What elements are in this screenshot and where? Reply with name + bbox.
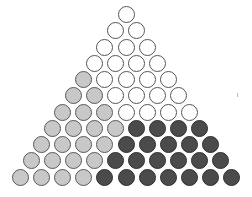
dark-circle (202, 136, 219, 153)
dark-circle (128, 120, 145, 137)
dark-circle (212, 152, 229, 169)
light-circle (12, 169, 29, 186)
light-circle (86, 152, 103, 169)
dark-circle (170, 120, 187, 137)
dark-circle (107, 152, 124, 169)
dark-circle (149, 152, 166, 169)
white-circle (128, 55, 145, 72)
white-circle (128, 22, 145, 39)
light-circle (75, 104, 92, 121)
dark-circle (181, 136, 198, 153)
light-circle (65, 87, 82, 104)
light-circle (75, 71, 92, 88)
light-circle (54, 136, 71, 153)
stray-mark (237, 93, 238, 97)
white-circle (128, 87, 145, 104)
dark-circle (223, 169, 240, 186)
light-circle (65, 152, 82, 169)
white-circle (139, 71, 156, 88)
light-circle (86, 87, 103, 104)
light-circle (96, 136, 113, 153)
white-circle (170, 87, 187, 104)
dark-circle (191, 120, 208, 137)
white-circle (107, 87, 124, 104)
dark-circle (170, 152, 187, 169)
white-circle (118, 104, 135, 121)
white-circle (149, 87, 166, 104)
dark-circle (139, 169, 156, 186)
white-circle (118, 6, 135, 23)
light-circle (107, 120, 124, 137)
white-circle (139, 39, 156, 56)
light-circle (75, 136, 92, 153)
light-circle (23, 152, 40, 169)
white-circle (107, 22, 124, 39)
dark-circle (191, 152, 208, 169)
dark-circle (202, 169, 219, 186)
white-circle (118, 71, 135, 88)
light-circle (44, 152, 61, 169)
light-circle (33, 169, 50, 186)
light-circle (54, 169, 71, 186)
dark-circle (139, 136, 156, 153)
white-circle (139, 104, 156, 121)
light-circle (96, 104, 113, 121)
dark-circle (118, 169, 135, 186)
white-circle (181, 104, 198, 121)
white-circle (96, 71, 113, 88)
dark-circle (128, 152, 145, 169)
light-circle (44, 120, 61, 137)
white-circle (149, 55, 166, 72)
light-circle (75, 169, 92, 186)
dark-circle (160, 136, 177, 153)
white-circle (160, 71, 177, 88)
light-circle (86, 120, 103, 137)
white-circle (160, 104, 177, 121)
white-circle (118, 39, 135, 56)
dark-circle (149, 120, 166, 137)
dark-circle (118, 136, 135, 153)
dark-circle (96, 169, 113, 186)
white-circle (107, 55, 124, 72)
dark-circle (181, 169, 198, 186)
white-circle (96, 39, 113, 56)
light-circle (54, 104, 71, 121)
light-circle (65, 120, 82, 137)
white-circle (86, 55, 103, 72)
dark-circle (160, 169, 177, 186)
triangle-figure (0, 0, 252, 197)
light-circle (33, 136, 50, 153)
